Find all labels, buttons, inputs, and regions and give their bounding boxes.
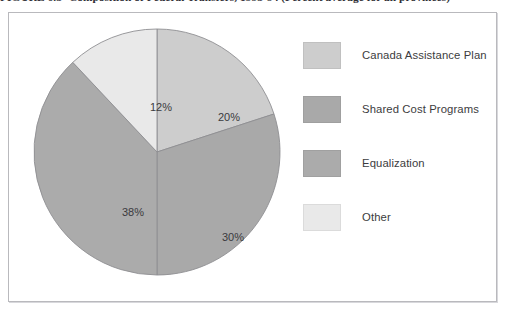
pie-slice-label: 30% xyxy=(222,231,244,243)
legend-label-canada-assistance-plan: Canada Assistance Plan xyxy=(362,49,487,61)
figure-caption-text: Composition of Federal Transfers, 1993-9… xyxy=(69,0,450,3)
legend-item: Shared Cost Programs xyxy=(303,95,493,123)
legend-label-other: Other xyxy=(362,211,391,223)
legend-label-shared-cost-programs: Shared Cost Programs xyxy=(362,103,479,115)
legend-swatch-shared-cost-programs xyxy=(303,96,341,123)
legend-swatch-other xyxy=(303,204,341,231)
figure-caption: FIGURE 6.3Composition of Federal Transfe… xyxy=(0,0,508,3)
legend-swatch-equalization xyxy=(303,150,341,177)
figure-number: FIGURE 6.3 xyxy=(0,0,62,3)
pie-slice-label: 12% xyxy=(150,101,172,113)
legend-item: Equalization xyxy=(303,149,493,177)
legend-item: Canada Assistance Plan xyxy=(303,41,493,69)
legend-swatch-canada-assistance-plan xyxy=(303,42,341,69)
chart-legend: Canada Assistance Plan Shared Cost Progr… xyxy=(303,41,493,257)
legend-label-equalization: Equalization xyxy=(362,157,425,169)
chart-frame: 20%30%38%12% Canada Assistance Plan Shar… xyxy=(8,12,497,302)
pie-slice-label: 38% xyxy=(122,206,144,218)
pie-chart-svg: 20%30%38%12% xyxy=(33,28,281,276)
pie-chart: 20%30%38%12% xyxy=(33,28,281,276)
pie-slice-label: 20% xyxy=(218,111,240,123)
legend-item: Other xyxy=(303,203,493,231)
